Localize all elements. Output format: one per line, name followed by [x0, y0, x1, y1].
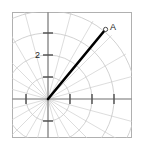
polar-plot-canvas: 2 A [0, 0, 144, 150]
polar-plot-figure: 2 A [0, 0, 144, 150]
point-a-label: A [110, 22, 116, 32]
radial-tick-label-2: 2 [35, 50, 40, 60]
point-a-marker [104, 27, 108, 31]
